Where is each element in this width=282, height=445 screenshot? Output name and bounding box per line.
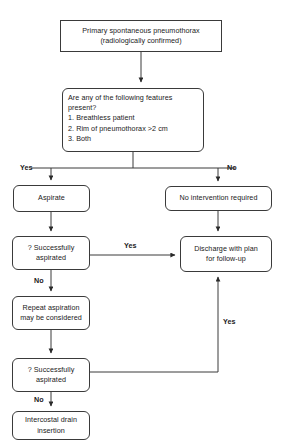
node-features-question: Are any of the following features presen… <box>62 88 204 152</box>
edge-label-yes-success-first: Yes <box>124 241 137 250</box>
edge-label-no-success-first: No <box>34 276 44 285</box>
node-successfully-aspirated-first: ? Successfully aspirated <box>12 236 90 270</box>
node-aspirate-label: Aspirate <box>38 193 65 203</box>
node-successfully-aspirated-second: ? Successfully aspirated <box>12 358 90 392</box>
flowchart-canvas: Primary spontaneous pneumothorax (radiol… <box>0 0 282 445</box>
node-repeat-aspiration: Repeat aspiration may be considered <box>12 296 90 330</box>
node-discharge-with-plan-label: Discharge with plan for follow-up <box>194 244 258 265</box>
node-no-intervention-required: No intervention required <box>165 186 272 211</box>
node-features-question-label: Are any of the following features presen… <box>68 93 172 144</box>
node-intercostal-drain-insertion-label: Intercostal drain insertion <box>25 415 77 436</box>
edge-label-no-branch: No <box>227 163 237 172</box>
node-successfully-aspirated-first-label: ? Successfully aspirated <box>28 243 75 264</box>
node-no-intervention-required-label: No intervention required <box>180 193 258 203</box>
node-primary-pneumothorax-label: Primary spontaneous pneumothorax (radiol… <box>82 26 199 47</box>
edge-label-yes-success-second: Yes <box>223 317 236 326</box>
edge-label-yes-branch: Yes <box>20 163 33 172</box>
edge-success-2-to-discharge <box>90 277 218 372</box>
node-intercostal-drain-insertion: Intercostal drain insertion <box>12 411 90 440</box>
node-repeat-aspiration-label: Repeat aspiration may be considered <box>20 303 82 324</box>
node-discharge-with-plan: Discharge with plan for follow-up <box>180 236 272 272</box>
node-successfully-aspirated-second-label: ? Successfully aspirated <box>28 365 75 386</box>
edge-features-split <box>31 152 235 168</box>
node-primary-pneumothorax: Primary spontaneous pneumothorax (radiol… <box>60 20 222 52</box>
edge-label-no-success-second: No <box>34 395 44 404</box>
node-aspirate: Aspirate <box>13 185 90 212</box>
